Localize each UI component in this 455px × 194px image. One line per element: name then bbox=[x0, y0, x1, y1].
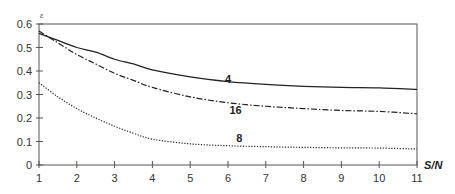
plot-frame bbox=[39, 24, 417, 165]
curve-label-16: 16 bbox=[229, 104, 241, 116]
x-tick-label: 5 bbox=[187, 172, 193, 184]
y-axis-title: ε bbox=[40, 11, 44, 20]
curve-label-8: 8 bbox=[236, 132, 242, 144]
line-chart: 123456789101100.10.20.30.40.50.6S/Nε 416… bbox=[0, 0, 455, 194]
series-line-8 bbox=[39, 83, 417, 149]
axes: 123456789101100.10.20.30.40.50.6S/Nε bbox=[17, 11, 444, 184]
x-tick-label: 7 bbox=[263, 172, 269, 184]
x-tick-label: 3 bbox=[112, 172, 118, 184]
series-group bbox=[39, 31, 417, 149]
y-tick-label: 0.2 bbox=[17, 112, 32, 124]
x-tick-label: 1 bbox=[36, 172, 42, 184]
y-tick-label: 0.3 bbox=[17, 89, 32, 101]
x-tick-label: 6 bbox=[225, 172, 231, 184]
labels-group: 4168 bbox=[225, 73, 242, 144]
x-tick-label: 10 bbox=[373, 172, 385, 184]
x-tick-label: 11 bbox=[411, 172, 422, 184]
y-tick-label: 0 bbox=[26, 159, 32, 171]
curve-label-4: 4 bbox=[225, 73, 232, 85]
x-tick-label: 2 bbox=[74, 172, 80, 184]
y-tick-label: 0.4 bbox=[17, 65, 32, 77]
y-tick-label: 0.5 bbox=[17, 42, 32, 54]
x-tick-label: 8 bbox=[301, 172, 307, 184]
x-tick-label: 9 bbox=[338, 172, 344, 184]
y-tick-label: 0.1 bbox=[17, 136, 32, 148]
y-tick-label: 0.6 bbox=[17, 18, 32, 30]
x-tick-label: 4 bbox=[149, 172, 155, 184]
x-axis-title: S/N bbox=[424, 159, 443, 171]
